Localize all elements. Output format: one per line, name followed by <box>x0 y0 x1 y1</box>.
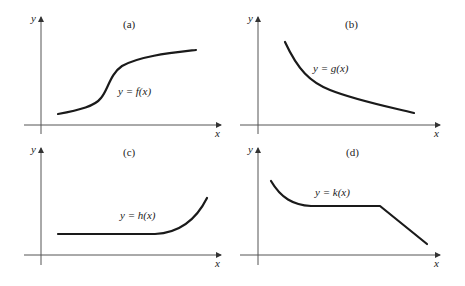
curve-f <box>58 50 196 114</box>
panel-c: y x (c) y = h(x) <box>24 143 221 269</box>
y-axis-label: y <box>247 143 253 155</box>
equation-label: y = k(x) <box>314 186 350 199</box>
equation-label: y = f(x) <box>117 85 151 98</box>
equation-label: y = g(x) <box>312 62 349 75</box>
x-axis-label: x <box>214 257 220 269</box>
y-axis-label: y <box>30 12 36 24</box>
panel-d: y x (d) y = k(x) <box>240 143 440 269</box>
curve-g <box>285 42 414 113</box>
panel-tag: (a) <box>123 18 136 31</box>
panel-b: y x (b) y = g(x) <box>240 12 440 139</box>
y-axis-label: y <box>247 12 253 24</box>
panel-tag: (d) <box>346 146 359 159</box>
equation-label: y = h(x) <box>119 209 156 222</box>
panel-tag: (b) <box>345 18 358 31</box>
panel-tag: (c) <box>123 146 136 159</box>
x-axis-label: x <box>433 127 439 139</box>
x-axis-label: x <box>433 257 439 269</box>
function-graphs-figure: y x (a) y = f(x) y x (b) y = g(x) y x (c… <box>0 0 465 286</box>
x-axis-label: x <box>214 127 220 139</box>
panel-a: y x (a) y = f(x) <box>24 12 221 139</box>
y-axis-label: y <box>30 143 36 155</box>
